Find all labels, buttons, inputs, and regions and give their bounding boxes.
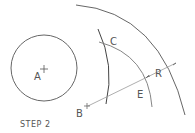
center-mark-b — [84, 103, 90, 109]
geometry-diagram: A C R E B STEP 2 — [0, 0, 195, 133]
arc-c — [98, 29, 109, 104]
construction-line-be — [88, 63, 176, 106]
label-r: R — [155, 68, 162, 79]
label-c: C — [110, 36, 117, 47]
label-a: A — [34, 71, 41, 82]
outer-arc — [76, 5, 185, 115]
step-caption: STEP 2 — [20, 120, 50, 129]
label-e: E — [137, 89, 143, 100]
label-b: B — [76, 108, 83, 119]
arrow-e — [146, 75, 150, 78]
center-mark-a — [40, 65, 48, 73]
